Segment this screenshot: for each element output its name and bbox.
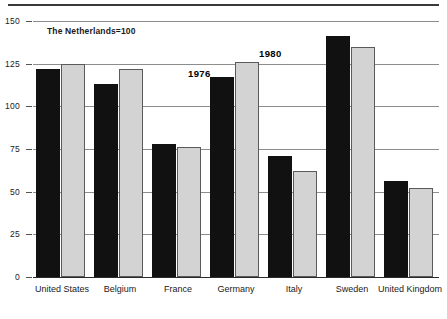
- bar-1976: [36, 69, 60, 277]
- ytick-mark-0: [26, 277, 32, 278]
- bar-1976: [94, 84, 118, 277]
- bar-1976: [210, 77, 234, 277]
- bars-layer: [33, 21, 439, 277]
- bar-1980: [119, 69, 143, 277]
- bar-1976: [152, 144, 176, 277]
- bar-1980: [177, 147, 201, 277]
- ytick-label-0: 0: [0, 273, 20, 282]
- ytick-mark-100: [26, 106, 32, 107]
- ytick-mark-150: [26, 21, 32, 22]
- bar-group: [91, 21, 149, 277]
- category-label: United Kingdom: [377, 284, 443, 296]
- bar-1976: [268, 156, 292, 277]
- ytick-mark-50: [26, 192, 32, 193]
- ytick-mark-125: [26, 64, 32, 65]
- bar-chart: The Netherlands=100 1976 1980 0255075100…: [0, 0, 447, 319]
- bar-group: [207, 21, 265, 277]
- category-label: Belgium: [87, 284, 153, 296]
- gridline-0: [33, 277, 439, 278]
- bar-1980: [293, 171, 317, 277]
- category-label: Sweden: [319, 284, 385, 296]
- category-label: Italy: [261, 284, 327, 296]
- plot-area: 0255075100125150: [33, 21, 439, 277]
- bar-group: [265, 21, 323, 277]
- bar-group: [33, 21, 91, 277]
- ytick-mark-75: [26, 149, 32, 150]
- category-label: Germany: [203, 284, 269, 296]
- ytick-label-150: 150: [0, 17, 20, 26]
- bar-1976: [326, 36, 350, 277]
- bar-1980: [351, 47, 375, 277]
- bar-1976: [384, 181, 408, 277]
- category-label: United States: [29, 284, 95, 296]
- bar-group: [381, 21, 439, 277]
- bar-1980: [235, 62, 259, 277]
- bar-1980: [61, 64, 85, 277]
- category-label: France: [145, 284, 211, 296]
- ytick-label-100: 100: [0, 102, 20, 111]
- ytick-label-25: 25: [0, 230, 20, 239]
- bar-1980: [409, 188, 433, 277]
- ytick-label-125: 125: [0, 60, 20, 69]
- ytick-label-50: 50: [0, 188, 20, 197]
- bar-group: [323, 21, 381, 277]
- ytick-label-75: 75: [0, 145, 20, 154]
- ytick-mark-25: [26, 234, 32, 235]
- bar-group: [149, 21, 207, 277]
